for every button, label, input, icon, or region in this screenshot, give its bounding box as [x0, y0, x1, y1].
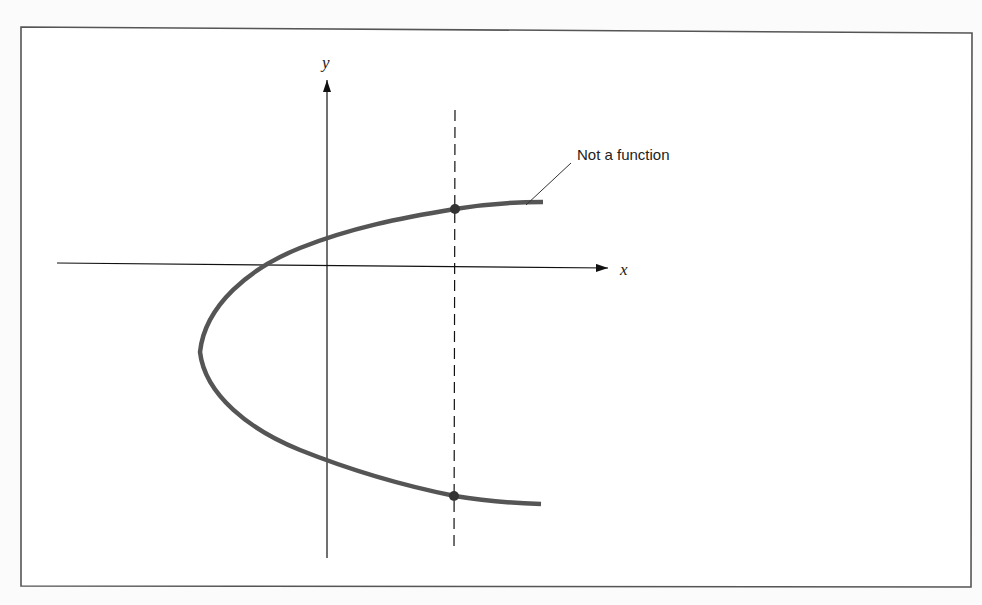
intersection-point-lower	[449, 491, 459, 501]
function-diagram: Not a function x y	[0, 0, 982, 605]
intersection-point-upper	[450, 204, 460, 214]
annotation-label: Not a function	[577, 146, 670, 163]
x-axis-label: x	[619, 260, 628, 279]
y-axis-label: y	[320, 53, 330, 72]
